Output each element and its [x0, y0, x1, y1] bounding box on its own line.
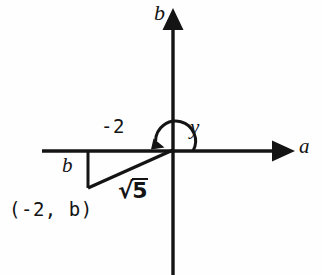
x-intercept-tick-label: -2: [101, 117, 125, 136]
angle-arc-arrowhead-icon: [151, 139, 165, 150]
diagram-canvas: [0, 0, 322, 275]
coordinate-diagram: b a y -2 b √5 (-2, b): [0, 0, 322, 275]
hypotenuse-label: √5: [118, 178, 148, 202]
vertical-leg-label: b: [62, 155, 73, 176]
arrow-right-icon: [272, 141, 295, 162]
point-coordinates-label: (-2, b): [9, 200, 93, 219]
angle-label: y: [190, 117, 199, 138]
vertical-axis-label: b: [154, 2, 165, 24]
radical-symbol: √: [118, 177, 133, 203]
arrow-up-icon: [163, 8, 184, 30]
radicand: 5: [132, 178, 147, 202]
horizontal-axis-label: a: [299, 136, 310, 157]
